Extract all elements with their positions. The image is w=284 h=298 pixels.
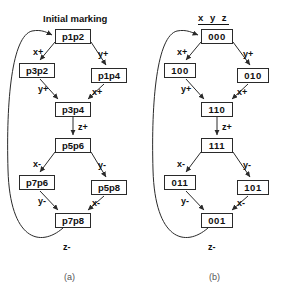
edge-midlower-leftlower [186,152,201,172]
edge-feedback-bottom-top [153,30,208,237]
edge-label-a-x-minus-1: x- [33,160,41,169]
edge-label-b-x-plus-1: x+ [177,48,187,57]
panel-b-caption: (b) [209,273,220,282]
node-111[interactable]: 111 [201,138,233,153]
edge-label-a-z-plus: z+ [78,123,88,132]
node-p5p6[interactable]: p5p6 [55,138,91,153]
edge-label-b-z-plus: z+ [222,123,232,132]
node-p3p4[interactable]: p3p4 [55,102,91,117]
panel-a-caption: (a) [64,273,75,282]
node-100[interactable]: 100 [164,63,196,78]
node-110[interactable]: 110 [201,102,233,117]
node-p1p2[interactable]: p1p2 [55,29,91,44]
node-p5p8[interactable]: p5p8 [91,180,127,195]
node-p3p2[interactable]: p3p2 [19,63,55,78]
node-000[interactable]: 000 [201,29,233,44]
edge-label-b-y-plus-2: y+ [181,85,191,94]
edge-label-a-y-plus-1: y+ [98,50,108,59]
node-p1p4[interactable]: p1p4 [91,68,127,83]
edge-label-a-x-plus-2: x+ [92,88,102,97]
panel-b-title: x y z [198,13,229,25]
node-010[interactable]: 010 [237,68,269,83]
node-011[interactable]: 011 [164,175,196,190]
edge-label-a-x-plus-1: x+ [33,48,43,57]
edge-midlower-leftlower [40,152,55,172]
edge-label-a-y-minus-2: y- [38,197,46,206]
edge-label-a-x-minus-2: x- [92,199,100,208]
edge-label-b-x-minus-1: x- [177,160,185,169]
edge-label-b-x-plus-2: x+ [237,88,247,97]
node-p7p8[interactable]: p7p8 [55,213,91,228]
node-001[interactable]: 001 [201,213,233,228]
edge-label-b-x-minus-2: x- [237,199,245,208]
edge-label-a-z-minus: z- [63,243,71,252]
node-p7p6[interactable]: p7p6 [19,175,55,190]
edge-label-b-z-minus: z- [208,243,216,252]
edge-label-b-y-minus-2: y- [181,197,189,206]
edge-label-b-y-minus-1: y- [243,161,251,170]
node-101[interactable]: 101 [237,180,269,195]
edge-label-a-y-minus-1: y- [98,161,106,170]
edge-top-leftupper [186,42,201,60]
diagram-panel-a: Initial marking p1p2 p3p2 p1p4 p3p4 p5p6… [0,0,142,298]
diagram-panel-b: x y z 000 100 010 110 111 011 101 001 x+… [142,0,284,298]
edge-label-a-y-plus-2: y+ [38,85,48,94]
figure-container: Initial marking p1p2 p3p2 p1p4 p3p4 p5p6… [0,0,284,298]
edge-label-b-y-plus-1: y+ [243,50,253,59]
panel-a-title: Initial marking [43,14,107,24]
